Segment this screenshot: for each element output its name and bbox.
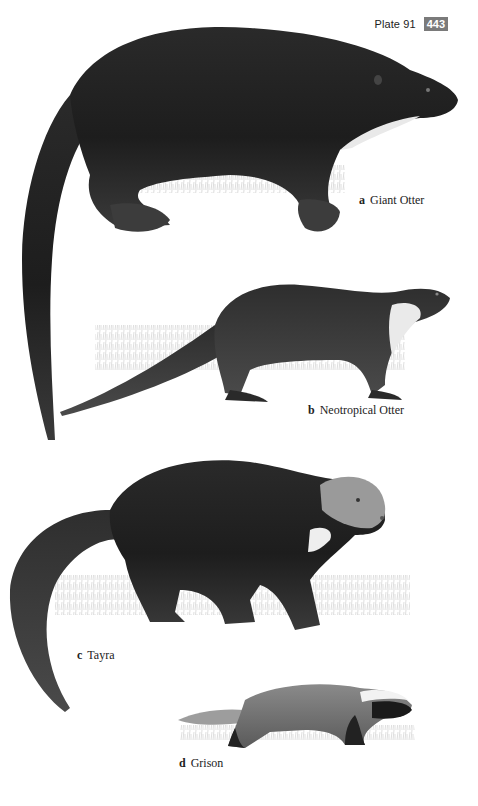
figure-letter: d xyxy=(179,756,186,770)
neotropical-otter-illustration xyxy=(60,285,450,416)
grison-illustration xyxy=(178,684,415,748)
caption-neotropical-otter: bNeotropical Otter xyxy=(308,403,404,418)
plate-illustrations xyxy=(0,0,478,806)
tayra-illustration xyxy=(10,460,410,712)
plate-page: Plate 91 443 xyxy=(0,0,478,806)
caption-tayra: cTayra xyxy=(77,648,114,663)
species-name: Giant Otter xyxy=(370,193,424,207)
species-name: Neotropical Otter xyxy=(320,403,404,417)
figure-letter: c xyxy=(77,648,82,662)
figure-letter: b xyxy=(308,403,315,417)
caption-giant-otter: aGiant Otter xyxy=(359,193,424,208)
species-name: Tayra xyxy=(87,648,114,662)
figure-letter: a xyxy=(359,193,365,207)
caption-grison: dGrison xyxy=(179,756,223,771)
species-name: Grison xyxy=(191,756,224,770)
